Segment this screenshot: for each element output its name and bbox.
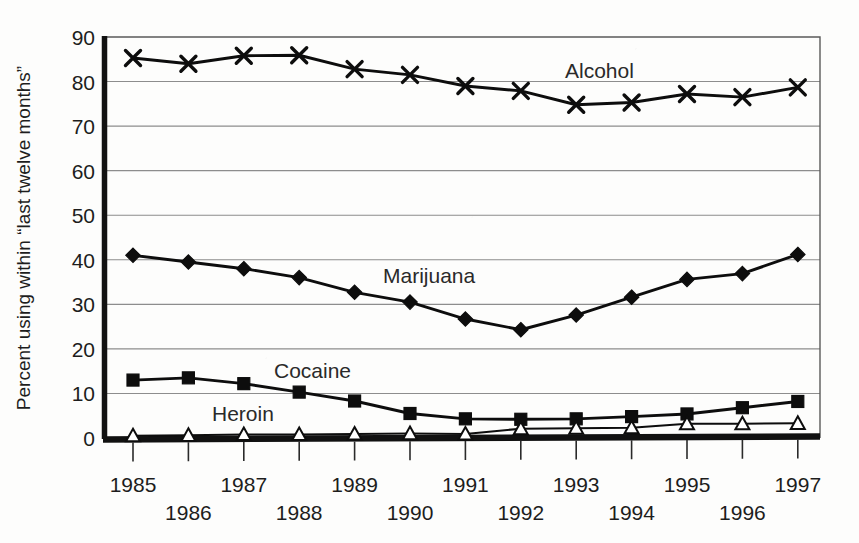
x-tick-label: 1996 (719, 501, 766, 524)
series-alcohol (126, 48, 806, 112)
data-point (237, 261, 251, 275)
data-point (792, 395, 804, 407)
y-tick-label: 60 (72, 160, 95, 183)
data-point (404, 407, 416, 419)
data-point (736, 402, 748, 414)
series-label-marijuana: Marijuana (383, 264, 476, 287)
x-tick-label: 1993 (553, 473, 600, 496)
data-point (624, 290, 638, 304)
y-axis-tick-labels: 0102030405060708090 (72, 26, 95, 450)
x-tick-label: 1987 (220, 473, 267, 496)
data-point (514, 323, 528, 337)
series-label-alcohol: Alcohol (565, 59, 634, 82)
data-point (680, 272, 694, 286)
data-point (182, 372, 194, 384)
y-tick-label: 40 (72, 249, 95, 272)
data-point (127, 374, 139, 386)
data-point (126, 248, 140, 262)
horizontal-gridlines (103, 82, 820, 394)
data-point (569, 308, 583, 322)
x-tick-label: 1997 (774, 473, 821, 496)
series-label-cocaine: Cocaine (274, 359, 351, 382)
series-label-heroin: Heroin (212, 402, 274, 425)
data-point (293, 386, 305, 398)
plot-frame (103, 37, 820, 438)
y-axis-title-text: Percent using within “last twelve months… (13, 66, 34, 410)
data-point (181, 255, 195, 269)
data-point (238, 378, 250, 390)
y-axis-title: Percent using within “last twelve months… (13, 66, 34, 410)
data-point (458, 312, 472, 326)
chart-figure: Percent using within “last twelve months… (0, 0, 859, 543)
x-tick-label: 1994 (608, 501, 655, 524)
x-axis-tick-marks (133, 440, 798, 462)
series-line-alcohol (133, 55, 798, 104)
x-tick-label: 1990 (387, 501, 434, 524)
data-point (735, 266, 749, 280)
x-tick-label: 1992 (497, 501, 544, 524)
y-tick-label: 0 (83, 427, 95, 450)
data-point (349, 395, 361, 407)
x-tick-label: 1988 (276, 501, 323, 524)
y-tick-label: 80 (72, 71, 95, 94)
x-tick-label: 1985 (110, 473, 157, 496)
series-marijuana (126, 247, 805, 337)
y-tick-label: 20 (72, 338, 95, 361)
y-tick-label: 50 (72, 204, 95, 227)
y-tick-label: 90 (72, 26, 95, 49)
x-tick-label: 1986 (165, 501, 212, 524)
data-point (459, 413, 471, 425)
line-chart-canvas: Percent using within “last twelve months… (0, 0, 859, 543)
y-tick-label: 10 (72, 382, 95, 405)
data-point (403, 295, 417, 309)
x-tick-label: 1991 (442, 473, 489, 496)
x-axis-tick-labels: 1985198619871988198919901991199219931994… (110, 473, 822, 524)
x-tick-label: 1989 (331, 473, 378, 496)
y-tick-label: 30 (72, 293, 95, 316)
y-tick-label: 70 (72, 115, 95, 138)
x-tick-label: 1995 (664, 473, 711, 496)
data-point (292, 270, 306, 284)
data-point (347, 285, 361, 299)
